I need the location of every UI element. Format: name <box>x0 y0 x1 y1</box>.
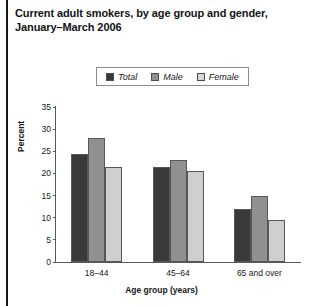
y-tick-label: 5 <box>37 235 51 245</box>
y-tick-10: 10 <box>37 213 56 223</box>
bar-total-2 <box>153 167 170 262</box>
x-axis-label-2: 45–64 <box>166 268 190 278</box>
y-tick-25: 25 <box>37 146 56 156</box>
y-tick-label: 25 <box>37 146 51 156</box>
y-tick-0: 0 <box>37 257 56 267</box>
legend-item-female: Female <box>197 72 239 82</box>
legend-label-female: Female <box>209 72 239 82</box>
chart-title-line-1: Current adult smokers, by age group and … <box>15 6 305 20</box>
plot-area: 05101520253035 <box>56 107 300 262</box>
y-tick-label: 15 <box>37 191 51 201</box>
y-axis-title: Percent <box>16 121 26 152</box>
legend-item-total: Total <box>106 72 137 82</box>
y-tick-mark <box>53 173 56 174</box>
y-tick-mark <box>53 217 56 218</box>
bar-total-1 <box>71 154 88 263</box>
y-tick-mark <box>53 129 56 130</box>
y-tick-label: 30 <box>37 124 51 134</box>
x-axis-label-1: 18–44 <box>85 268 109 278</box>
legend-swatch-female-icon <box>197 73 205 81</box>
y-tick-label: 20 <box>37 168 51 178</box>
x-axis-line <box>55 262 301 263</box>
y-tick-15: 15 <box>37 191 56 201</box>
legend-label-male: Male <box>163 72 183 82</box>
y-tick-label: 35 <box>37 102 51 112</box>
chart-title: Current adult smokers, by age group and … <box>15 6 305 34</box>
bar-female-2 <box>187 171 204 262</box>
y-tick-mark <box>53 239 56 240</box>
y-tick-label: 0 <box>37 257 51 267</box>
bar-female-3 <box>268 220 285 262</box>
y-tick-mark <box>53 262 56 263</box>
legend-item-male: Male <box>151 72 183 82</box>
bar-male-3 <box>251 196 268 262</box>
x-axis-label-3: 65 and over <box>237 268 282 278</box>
chart-legend: Total Male Female <box>96 67 249 86</box>
y-tick-label: 10 <box>37 213 51 223</box>
legend-swatch-total-icon <box>106 73 114 81</box>
x-axis-title: Age group (years) <box>0 285 323 295</box>
y-tick-mark <box>53 107 56 108</box>
y-tick-5: 5 <box>37 235 56 245</box>
page-edge-rule <box>6 0 8 306</box>
bar-female-1 <box>105 167 122 262</box>
legend-label-total: Total <box>118 72 137 82</box>
y-tick-35: 35 <box>37 102 56 112</box>
bar-total-3 <box>234 209 251 262</box>
chart-figure: Current adult smokers, by age group and … <box>0 0 323 306</box>
y-tick-mark <box>53 151 56 152</box>
chart-title-line-2: January–March 2006 <box>15 20 305 34</box>
y-tick-mark <box>53 195 56 196</box>
bar-male-1 <box>88 138 105 262</box>
legend-swatch-male-icon <box>151 73 159 81</box>
bar-male-2 <box>170 160 187 262</box>
y-tick-30: 30 <box>37 124 56 134</box>
y-tick-20: 20 <box>37 168 56 178</box>
